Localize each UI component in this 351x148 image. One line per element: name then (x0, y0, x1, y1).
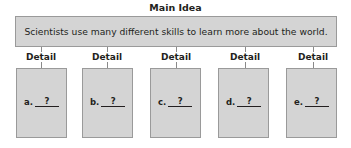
detail-box-e: e.? (286, 68, 337, 138)
main-idea-title: Main Idea (0, 2, 351, 13)
answer-blank[interactable]: ? (35, 96, 59, 107)
main-idea-text: Scientists use many different skills to … (24, 26, 327, 37)
detail-box-a: a.? (16, 68, 67, 138)
detail-box-d: d.? (218, 68, 269, 138)
detail-letter: a. (24, 97, 33, 107)
answer-blank[interactable]: ? (101, 96, 125, 107)
detail-letter: e. (294, 97, 303, 107)
answer-blank[interactable]: ? (305, 96, 329, 107)
detail-label-e: Detail (283, 52, 343, 62)
detail-box-c: c.? (150, 68, 201, 138)
answer-blank[interactable]: ? (237, 96, 261, 107)
detail-label-d: Detail (215, 52, 275, 62)
detail-box-b: b.? (82, 68, 133, 138)
detail-label-c: Detail (146, 52, 206, 62)
detail-label-b: Detail (77, 52, 137, 62)
detail-letter: c. (158, 97, 166, 107)
main-idea-box: Scientists use many different skills to … (15, 16, 337, 47)
detail-letter: d. (226, 97, 235, 107)
detail-label-a: Detail (11, 52, 71, 62)
answer-blank[interactable]: ? (168, 96, 192, 107)
detail-letter: b. (90, 97, 99, 107)
